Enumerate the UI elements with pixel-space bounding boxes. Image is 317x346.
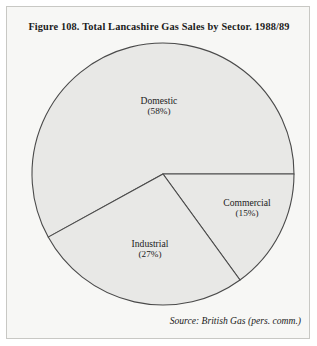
pie-label-industrial-name: Industrial (132, 238, 169, 249)
pie-chart: Domestic (58%) Commercial (15%) Industri… (7, 7, 311, 340)
pie-label-domestic-value: (58%) (99, 106, 219, 117)
pie-label-commercial-value: (15%) (192, 208, 302, 219)
pie-label-commercial: Commercial (15%) (192, 197, 302, 219)
pie-chart-svg (1, 1, 317, 346)
pie-label-domestic: Domestic (58%) (99, 95, 219, 117)
pie-label-domestic-name: Domestic (141, 95, 178, 106)
pie-label-commercial-name: Commercial (223, 197, 270, 208)
pie-label-industrial: Industrial (27%) (95, 238, 205, 260)
figure-frame: Figure 108. Total Lancashire Gas Sales b… (6, 6, 310, 339)
source-note: Source: British Gas (pers. comm.) (170, 315, 301, 326)
pie-label-industrial-value: (27%) (95, 249, 205, 260)
